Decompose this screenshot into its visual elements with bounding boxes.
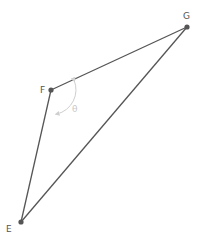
angle-label-theta: θ xyxy=(72,104,78,114)
vertex-f xyxy=(48,87,53,92)
edge-fg xyxy=(51,27,187,90)
edge-ef xyxy=(21,90,51,222)
edge-ge xyxy=(21,27,187,222)
vertex-g xyxy=(184,24,189,29)
vertex-e xyxy=(18,219,23,224)
vertex-label-g: G xyxy=(183,11,190,21)
vertex-label-e: E xyxy=(6,224,12,234)
triangle-diagram: θ F G E xyxy=(0,0,199,236)
vertex-label-f: F xyxy=(40,85,45,95)
